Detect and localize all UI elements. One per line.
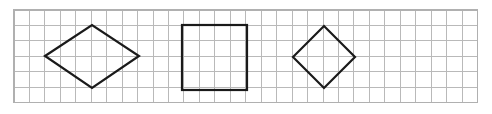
shapes-on-grid-figure: [0, 0, 492, 114]
figure-container: [0, 0, 492, 114]
